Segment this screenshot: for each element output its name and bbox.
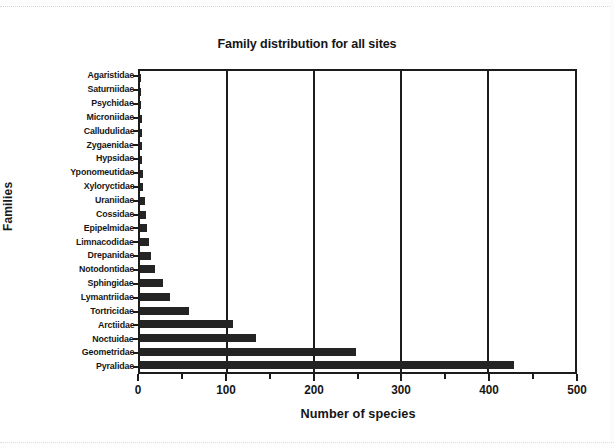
y-tick-label: Limnacodidae [76, 238, 134, 247]
bar [140, 224, 147, 232]
y-tick-label-cell: Microniidae [40, 111, 134, 125]
y-tick-label-cell: Tortricidae [40, 305, 134, 319]
bar-row [140, 181, 575, 195]
bar-row [140, 263, 575, 277]
bar [140, 265, 155, 273]
bar-row [140, 235, 575, 249]
x-tick-minor-50 [181, 374, 183, 379]
x-axis-title: Number of species [151, 406, 565, 421]
y-tick-label-cell: Drepanidae [40, 249, 134, 263]
y-tick-label-cell: Zygaenidae [40, 138, 134, 152]
y-tick-label-cell: Notodontidae [40, 263, 134, 277]
bar [140, 238, 149, 246]
bar-row [140, 358, 575, 372]
bar [140, 101, 141, 109]
y-tick-label: Saturniidae [87, 85, 134, 94]
x-tick-label: 100 [216, 383, 236, 397]
bar-row [140, 194, 575, 208]
y-tick-label: Lymantriidae [81, 293, 134, 302]
bar [140, 115, 142, 123]
x-tick-label: 400 [479, 383, 499, 397]
chart-title: Family distribution for all sites [21, 36, 592, 51]
y-tick-label: Tortricidae [91, 307, 134, 316]
x-tick-major-500 [576, 374, 578, 381]
y-tick-label-cell: Calludulidae [40, 124, 134, 138]
bar-row [140, 222, 575, 236]
x-tick-minor-250 [357, 374, 359, 379]
scan-edge-top [0, 0, 614, 7]
y-tick-label-cell: Pyralidae [40, 360, 134, 374]
y-tick-label-cell: Agaristidae [40, 69, 134, 83]
bar-row [140, 276, 575, 290]
y-axis-title: Families [0, 165, 15, 248]
x-tick-major-0 [137, 374, 139, 381]
x-tick-major-200 [313, 374, 315, 381]
y-tick-label: Xyloryctidae [83, 182, 134, 191]
y-tick-label-cell: Sphingidae [40, 277, 134, 291]
bar-series [140, 71, 575, 372]
x-tick-label: 0 [135, 383, 142, 397]
x-tick-label: 200 [304, 383, 324, 397]
y-tick-label-cell: Yponomeutidae [40, 166, 134, 180]
bar [140, 88, 141, 96]
y-tick-label: Microniidae [86, 113, 134, 122]
scan-edge-bottom [0, 442, 614, 448]
x-tick-minor-150 [269, 374, 271, 379]
x-tick-major-400 [488, 374, 490, 381]
bar-row [140, 290, 575, 304]
y-tick-label-cell: Uraniidae [40, 194, 134, 208]
y-tick-label-cell: Epipelmidae [40, 221, 134, 235]
bar [140, 170, 143, 178]
bar [140, 334, 256, 342]
bar [140, 293, 170, 301]
y-tick-label: Hypsidae [96, 154, 134, 163]
x-tick-minor-350 [444, 374, 446, 379]
x-tick-major-100 [225, 374, 227, 381]
y-tick-label-cell: Cossidae [40, 208, 134, 222]
y-tick-label: Drepanidae [87, 251, 134, 260]
bar [140, 129, 142, 137]
y-tick-label: Pyralidae [96, 362, 134, 371]
y-tick-label-cell: Geometridae [40, 346, 134, 360]
bar-row [140, 345, 575, 359]
bar-row [140, 112, 575, 126]
bar [140, 320, 233, 328]
bar [140, 252, 151, 260]
bar-row [140, 139, 575, 153]
bar-row [140, 71, 575, 85]
y-tick-label-cell: Saturniidae [40, 83, 134, 97]
y-tick-label-cell: Xyloryctidae [40, 180, 134, 194]
y-tick-label: Calludulidae [83, 127, 134, 136]
x-tick-label: 300 [392, 383, 412, 397]
x-axis-tick-labels: 0100200300400500 [138, 383, 577, 401]
bar-row [140, 126, 575, 140]
bar-row [140, 331, 575, 345]
bar [140, 183, 143, 191]
y-tick-label-cell: Lymantriidae [40, 291, 134, 305]
y-tick-label: Zygaenidae [87, 141, 134, 150]
y-tick-label: Psychidae [92, 99, 134, 108]
x-tick-label: 500 [567, 383, 587, 397]
y-tick-label: Notodontidae [79, 265, 134, 274]
plot-area [138, 69, 577, 374]
y-tick-label: Noctuidae [93, 335, 134, 344]
bar [140, 361, 514, 369]
y-tick-label: Cossidae [96, 210, 134, 219]
bar [140, 74, 141, 82]
bar-row [140, 153, 575, 167]
bar-row [140, 208, 575, 222]
bar [140, 307, 189, 315]
bar-row [140, 85, 575, 99]
y-tick-label: Uraniidae [95, 196, 134, 205]
y-tick-label: Sphingidae [88, 279, 134, 288]
chart-page: Family distribution for all sites Famili… [0, 0, 614, 448]
y-tick-label-cell: Hypsidae [40, 152, 134, 166]
y-tick-label-cell: Psychidae [40, 97, 134, 111]
bar-row [140, 167, 575, 181]
x-tick-minor-450 [532, 374, 534, 379]
scan-edge-right [610, 0, 614, 448]
y-tick-label: Yponomeutidae [70, 168, 134, 177]
y-axis-tick-labels: AgaristidaeSaturniidaePsychidaeMicroniid… [40, 69, 134, 374]
y-tick-label-cell: Noctuidae [40, 332, 134, 346]
bar [140, 156, 142, 164]
